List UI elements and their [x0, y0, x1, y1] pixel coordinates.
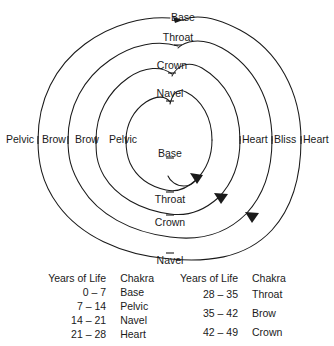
table-row: 35 – 42 Brow — [180, 305, 286, 324]
arrowhead-second — [245, 212, 259, 223]
header-chakra-right: Chakra — [252, 272, 286, 286]
spiral-label-heart-outer: Heart — [303, 134, 329, 145]
cell-years: 42 – 49 — [180, 324, 252, 343]
spiral-tail — [168, 176, 196, 186]
chakra-legend-tables: Years of Life Chakra 0 – 7 Base 7 – 14 P… — [0, 272, 334, 342]
cell-years: 28 – 35 — [180, 286, 252, 305]
cell-years: 21 – 28 — [48, 328, 120, 342]
table-row: 28 – 35 Throat — [180, 286, 286, 305]
cell-chakra: Crown — [252, 324, 286, 343]
spiral-label-pelvic-inner: Pelvic — [109, 134, 137, 145]
header-chakra-left: Chakra — [120, 272, 154, 286]
spiral-label-base-top: Base — [171, 12, 195, 23]
spiral-label-brow-outer: Brow — [42, 134, 66, 145]
spiral-label-bliss: Bliss — [274, 134, 296, 145]
cell-chakra: Throat — [252, 286, 286, 305]
spiral-arc-second — [178, 41, 272, 140]
spiral-label-navel-bottom: Navel — [157, 255, 184, 266]
spiral-label-brow-inner: Brow — [75, 134, 99, 145]
spiral-label-navel-top: Navel — [157, 88, 184, 99]
cell-chakra: Navel — [120, 314, 154, 328]
cell-years: 35 – 42 — [180, 305, 252, 324]
spiral-arc-third — [172, 64, 240, 140]
cell-years: 0 – 7 — [48, 286, 120, 300]
spiral-label-heart-inner: Heart — [242, 134, 268, 145]
table-header-row: Years of Life Chakra — [180, 272, 286, 286]
spiral-label-pelvic-outer: Pelvic — [6, 134, 34, 145]
spiral-label-base-center: Base — [158, 148, 182, 159]
arrowhead-third — [214, 193, 228, 204]
header-years-of-life-left: Years of Life — [48, 272, 120, 286]
header-years-of-life-right: Years of Life — [180, 272, 252, 286]
table-row: 21 – 28 Heart — [48, 328, 154, 342]
table-row: 42 – 49 Crown — [180, 324, 286, 343]
table-row: 14 – 21 Navel — [48, 314, 154, 328]
cell-chakra: Heart — [120, 328, 154, 342]
table-row: 7 – 14 Pelvic — [48, 300, 154, 314]
table-header-row: Years of Life Chakra — [48, 272, 154, 286]
spiral-label-crown-bottom: Crown — [155, 217, 185, 228]
table-row: 0 – 7 Base — [48, 286, 154, 300]
cell-chakra: Pelvic — [120, 300, 154, 314]
cell-chakra: Brow — [252, 305, 286, 324]
spiral-arc-outer — [183, 17, 301, 140]
table-left: Years of Life Chakra 0 – 7 Base 7 – 14 P… — [48, 272, 154, 342]
cell-years: 7 – 14 — [48, 300, 120, 314]
cell-chakra: Base — [120, 286, 154, 300]
spiral-label-crown-top: Crown — [157, 60, 187, 71]
spiral-label-throat-bottom: Throat — [155, 194, 185, 205]
table-right: Years of Life Chakra 28 – 35 Throat 35 –… — [180, 272, 286, 342]
cell-years: 14 – 21 — [48, 314, 120, 328]
spiral-label-throat-top: Throat — [163, 32, 193, 43]
